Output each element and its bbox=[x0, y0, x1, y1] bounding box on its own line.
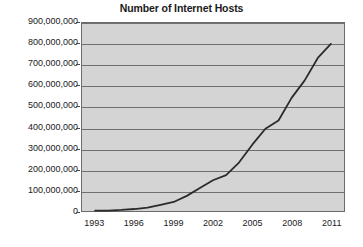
y-tick-mark bbox=[76, 149, 80, 150]
internet-hosts-chart: Number of Internet Hosts 900,000,000800,… bbox=[0, 0, 363, 247]
x-tick-label: 1996 bbox=[114, 218, 154, 228]
plot-area bbox=[81, 22, 345, 212]
x-tick-label: 1993 bbox=[74, 218, 114, 228]
y-tick-mark bbox=[76, 170, 80, 171]
y-tick-mark bbox=[76, 22, 80, 23]
y-tick-mark bbox=[76, 191, 80, 192]
series-line-internet-hosts bbox=[82, 23, 344, 211]
x-tick-label: 2011 bbox=[312, 218, 352, 228]
y-tick-label: 400,000,000 bbox=[2, 122, 78, 132]
x-tick-label: 2002 bbox=[193, 218, 233, 228]
y-axis: 900,000,000800,000,000700,000,000600,000… bbox=[0, 22, 78, 212]
y-tick-mark bbox=[76, 85, 80, 86]
y-tick-label: 500,000,000 bbox=[2, 100, 78, 110]
y-tick-label: 0 bbox=[2, 206, 78, 216]
plot-area-wrapper bbox=[81, 22, 345, 212]
y-tick-label: 800,000,000 bbox=[2, 37, 78, 47]
y-tick-mark bbox=[76, 106, 80, 107]
y-tick-label: 600,000,000 bbox=[2, 79, 78, 89]
y-tick-label: 100,000,000 bbox=[2, 185, 78, 195]
y-tick-mark bbox=[76, 212, 80, 213]
y-tick-label: 200,000,000 bbox=[2, 164, 78, 174]
x-tick-label: 2008 bbox=[272, 218, 312, 228]
y-tick-label: 300,000,000 bbox=[2, 143, 78, 153]
chart-title: Number of Internet Hosts bbox=[0, 2, 363, 14]
x-tick-label: 2005 bbox=[233, 218, 273, 228]
y-tick-label: 700,000,000 bbox=[2, 58, 78, 68]
x-axis: 1993199619992002200520082011 bbox=[81, 213, 345, 235]
y-tick-mark bbox=[76, 64, 80, 65]
x-tick-label: 1999 bbox=[153, 218, 193, 228]
y-tick-label: 900,000,000 bbox=[2, 16, 78, 26]
y-tick-mark bbox=[76, 128, 80, 129]
y-tick-mark bbox=[76, 43, 80, 44]
